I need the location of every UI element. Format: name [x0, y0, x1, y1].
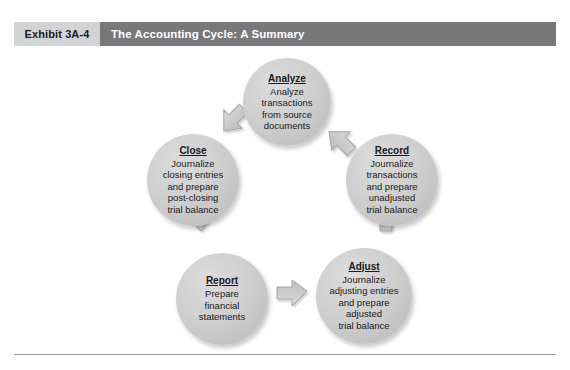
cycle-node-record-body: Journalize transactions and prepare unad…: [366, 158, 417, 215]
clipped-text-bleed: · · · · · · · ·: [0, 0, 570, 4]
exhibit-header: Exhibit 3A-4 The Accounting Cycle: A Sum…: [14, 22, 556, 46]
cycle-node-close-title: Close: [179, 145, 206, 157]
cycle-node-analyze-body: Analyze transactions from source documen…: [261, 86, 312, 132]
cycle-node-close-body: Journalize closing entries and prepare p…: [163, 158, 224, 215]
cycle-node-report-body: Prepare financial statements: [199, 288, 245, 322]
exhibit-title: The Accounting Cycle: A Summary: [100, 22, 556, 46]
arrow-adjust-to-report: [277, 280, 307, 306]
accounting-cycle-diagram: Analyze Analyze transactions from source…: [0, 46, 570, 342]
cycle-node-adjust: Adjust Journalize adjusting entries and …: [316, 248, 412, 344]
cycle-node-record: Record Journalize transactions and prepa…: [346, 134, 438, 226]
exhibit-number-label: Exhibit 3A-4: [14, 22, 100, 46]
cycle-node-report: Report Prepare financial statements: [176, 253, 268, 345]
footer-divider: [14, 354, 556, 355]
cycle-node-adjust-title: Adjust: [348, 261, 379, 273]
cycle-node-analyze-title: Analyze: [268, 73, 306, 85]
cycle-node-record-title: Record: [375, 145, 409, 157]
cycle-node-report-title: Report: [206, 275, 238, 287]
cycle-node-adjust-body: Journalize adjusting entries and prepare…: [329, 274, 398, 331]
cycle-node-analyze: Analyze Analyze transactions from source…: [243, 58, 331, 146]
cycle-node-close: Close Journalize closing entries and pre…: [147, 134, 239, 226]
